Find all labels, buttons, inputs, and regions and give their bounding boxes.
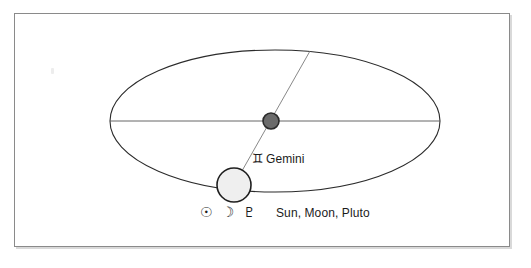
body-symbols-row: ☉ ☽ ♇ xyxy=(200,205,256,219)
diagram-page: ♊ Gemini ☉ ☽ ♇ Sun, Moon, Pluto xyxy=(0,0,531,268)
pluto-symbol: ♇ xyxy=(243,205,256,219)
gemini-symbol: ♊ xyxy=(252,152,264,165)
body-list-label: Sun, Moon, Pluto xyxy=(276,206,370,220)
orbiting-body xyxy=(217,168,251,202)
diagram-canvas xyxy=(0,0,531,268)
sun-symbol: ☉ xyxy=(200,205,213,219)
gemini-label: Gemini xyxy=(266,152,305,166)
center-body xyxy=(263,113,279,129)
moon-symbol: ☽ xyxy=(222,205,235,219)
